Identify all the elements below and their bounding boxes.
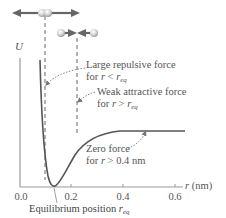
equilibrium-pointer-line — [54, 188, 57, 203]
x-axis — [20, 184, 183, 187]
zero-force-label: Zero force for r > 0.4 nm — [86, 143, 145, 167]
attractive-force-label: Weak attractive force for r > req — [97, 86, 187, 113]
equilibrium-position-label: Equilibrium position req — [29, 203, 130, 218]
x-tick-label-0.2: 0.2 — [64, 191, 77, 202]
compressed-molecule-icon — [12, 9, 80, 17]
x-axis-label: r (nm) — [185, 180, 212, 192]
x-tick-label-0.0: 0.0 — [14, 191, 27, 202]
attractive-annotation-arrow — [79, 92, 95, 101]
repulsive-annotation-arrow — [47, 68, 85, 84]
x-tick-label-0.4: 0.4 — [116, 191, 129, 202]
stretched-molecule-icon — [57, 29, 98, 37]
repulsive-force-label: Large repulsive force for r < req — [86, 59, 176, 86]
y-axis-label: U — [15, 40, 23, 52]
x-tick-label-0.6: 0.6 — [168, 191, 181, 202]
